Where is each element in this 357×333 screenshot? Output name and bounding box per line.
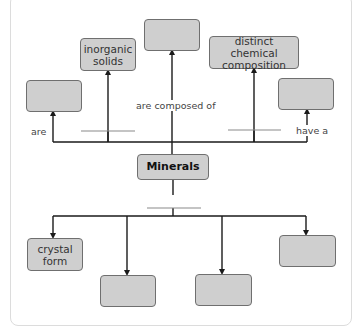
node-minerals[interactable]: Minerals <box>137 154 209 180</box>
node-inorganic-solids[interactable]: inorganic solids <box>80 38 136 71</box>
node-bottom-blank-1[interactable] <box>100 275 156 307</box>
central-concept-label: Minerals <box>146 161 199 173</box>
node-distinct-chemical-composition[interactable]: distinct chemical composition <box>209 36 299 69</box>
link-label-are: are <box>31 126 46 137</box>
node-bottom-blank-2[interactable] <box>195 274 252 306</box>
node-top-center-blank[interactable] <box>144 19 200 51</box>
node-label: inorganic solids <box>81 43 135 67</box>
link-label-are-composed-of: are composed of <box>136 100 216 111</box>
node-bottom-blank-3[interactable] <box>279 235 336 267</box>
node-top-right-blank[interactable] <box>278 78 334 110</box>
node-crystal-form[interactable]: crystal form <box>27 238 83 271</box>
node-label: distinct chemical composition <box>210 35 298 71</box>
node-top-left-blank[interactable] <box>26 80 82 112</box>
link-label-have-a: have a <box>294 125 328 136</box>
node-label: crystal form <box>28 243 82 267</box>
